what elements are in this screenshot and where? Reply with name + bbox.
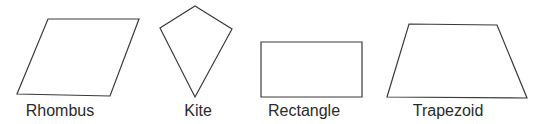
- rhombus-shape: [17, 19, 139, 96]
- kite-shape: [160, 6, 232, 97]
- rectangle-label: Rectangle: [268, 102, 340, 120]
- rhombus-label: Rhombus: [26, 102, 94, 120]
- quadrilaterals-diagram: Rhombus Kite Rectangle Trapezoid: [0, 0, 539, 124]
- trapezoid-label: Trapezoid: [413, 102, 484, 120]
- kite-label: Kite: [184, 102, 212, 120]
- trapezoid-shape: [387, 24, 527, 98]
- rectangle-shape: [261, 42, 362, 97]
